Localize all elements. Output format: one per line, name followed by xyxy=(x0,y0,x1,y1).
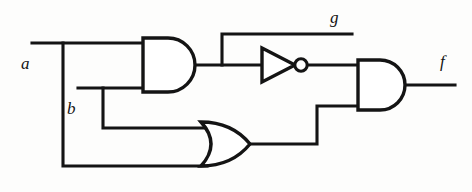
label-signal-g: g xyxy=(330,9,339,26)
and-gate-1 xyxy=(143,38,195,92)
and-gate-2 xyxy=(358,60,405,110)
circuit-schematic-canvas xyxy=(0,0,472,192)
label-input-b: b xyxy=(67,100,76,117)
not-gate-bubble xyxy=(295,59,307,71)
or-gate xyxy=(201,122,250,166)
label-output-f: f xyxy=(440,53,445,70)
logic-circuit-diagram: a b g f xyxy=(0,0,472,192)
not-gate-triangle xyxy=(262,48,295,82)
wire-b-branch-to-or xyxy=(103,88,207,128)
label-input-a: a xyxy=(21,55,30,72)
wire-or-output-to-and2 xyxy=(250,106,358,144)
